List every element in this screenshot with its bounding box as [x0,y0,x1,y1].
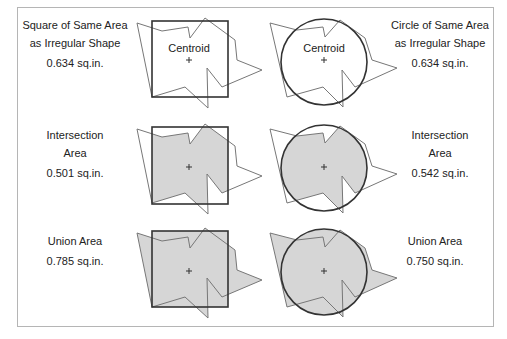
label-line: Intersection [400,126,480,144]
label-line: as Irregular Shape [378,34,502,52]
equal-area-square [152,21,228,97]
centroid-plus-icon [321,57,327,63]
centroid-label-circle: Centroid [299,39,349,57]
area-value: 0.501 sq.in. [10,164,140,182]
irregular-shape-outline [137,18,262,108]
label-line: Union Area [395,232,475,250]
circle-union-fill [270,229,397,317]
area-value: 0.750 sq.in. [395,252,475,270]
square-union-label: Union Area 0.785 sq.in. [10,232,140,270]
circle-union-label: Union Area 0.750 sq.in. [395,232,475,270]
area-value: 0.785 sq.in. [10,252,140,270]
label-line: Circle of Same Area [378,16,502,34]
label-line: Square of Same Area [10,16,140,34]
label-line: Area [400,144,480,162]
square-same-area-label: Square of Same Area as Irregular Shape 0… [10,16,140,72]
circle-intersection-label: Intersection Area 0.542 sq.in. [400,126,480,182]
label-line: as Irregular Shape [10,34,140,52]
area-value: 0.634 sq.in. [378,54,502,72]
area-value: 0.542 sq.in. [400,164,480,182]
centroid-plus-icon [186,57,192,63]
centroid-label-square: Centroid [164,39,214,57]
circle-same-area-label: Circle of Same Area as Irregular Shape 0… [378,16,502,72]
circle-intersection-fill [270,126,397,213]
label-line: Area [10,144,140,162]
label-line: Intersection [10,126,140,144]
area-value: 0.634 sq.in. [10,54,140,72]
label-line: Union Area [10,232,140,250]
square-intersection-label: Intersection Area 0.501 sq.in. [10,126,140,182]
row1-square-group [137,18,262,108]
